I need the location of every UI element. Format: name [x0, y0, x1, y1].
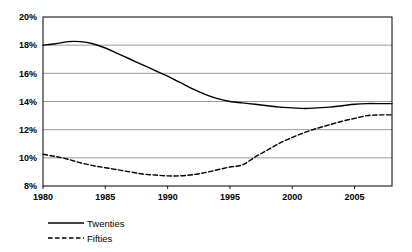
x-axis-tick-label: 1980: [33, 192, 53, 202]
x-axis-tick-label: 2000: [282, 192, 302, 202]
y-axis-tick-label: 10%: [19, 153, 37, 163]
y-axis-tick-label: 18%: [19, 40, 37, 50]
line-chart: 8%10%12%14%16%18%20% 1980198519901995200…: [0, 0, 412, 252]
y-axis-tick-label: 12%: [19, 125, 37, 135]
chart-background: [0, 0, 412, 252]
x-axis-tick-label: 1990: [158, 192, 178, 202]
x-axis-tick-label: 1995: [220, 192, 240, 202]
legend-label-twenties: Twenties: [87, 218, 125, 229]
y-axis-tick-label: 20%: [19, 12, 37, 22]
legend-label-fifties: Fifties: [87, 233, 113, 244]
y-axis-tick-label: 14%: [19, 97, 37, 107]
y-axis-tick-label: 16%: [19, 69, 37, 79]
chart-container: 8%10%12%14%16%18%20% 1980198519901995200…: [0, 0, 412, 252]
x-axis-tick-label: 2005: [345, 192, 365, 202]
x-axis-tick-label: 1985: [95, 192, 115, 202]
y-axis-tick-label: 8%: [24, 181, 37, 191]
